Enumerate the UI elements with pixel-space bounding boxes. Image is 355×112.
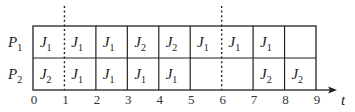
job-subscript: 2 [141, 42, 146, 53]
job-subscript: 2 [298, 74, 303, 85]
job-label: J2 [134, 34, 146, 53]
processor-label: P2 [7, 66, 22, 85]
x-tick-label: 3 [125, 92, 132, 107]
x-tick-label: 1 [62, 92, 69, 107]
job-subscript: 1 [235, 42, 240, 53]
job-subscript: 1 [109, 74, 114, 85]
job-cells: J1J1J1J2J2J1J1J1J2J1J1J1J1J2J2 [40, 34, 303, 85]
job-subscript: 1 [204, 42, 209, 53]
x-tick-label: 6 [219, 92, 226, 107]
job-label: J1 [260, 34, 272, 53]
x-tick-label: 5 [188, 92, 195, 107]
gantt-chart: J1J1J1J2J2J1J1J1J2J1J1J1J1J2J2 P1P2 0123… [0, 0, 355, 112]
job-label: J1 [166, 66, 178, 85]
processor-subscript: 1 [17, 42, 22, 53]
job-subscript: 1 [172, 74, 177, 85]
processor-name: P [7, 66, 17, 82]
job-label: J1 [229, 34, 241, 53]
x-tick-label: 9 [314, 92, 321, 107]
job-subscript: 1 [78, 42, 83, 53]
processor-labels: P1P2 [7, 34, 22, 85]
job-label: J1 [103, 34, 115, 53]
x-tick-label: 8 [282, 92, 289, 107]
x-axis-label: t [341, 92, 346, 108]
job-label: J2 [291, 66, 303, 85]
processor-name: P [7, 34, 17, 50]
job-label: J1 [40, 34, 52, 53]
processor-subscript: 2 [17, 74, 22, 85]
job-subscript: 1 [78, 74, 83, 85]
x-tick-label: 7 [251, 92, 258, 107]
x-tick-label: 4 [157, 92, 164, 107]
job-label: J2 [40, 66, 52, 85]
x-tick-label: 0 [31, 92, 38, 107]
x-tick-label: 2 [94, 92, 101, 107]
job-label: J2 [166, 34, 178, 53]
job-subscript: 2 [267, 74, 272, 85]
job-subscript: 1 [141, 74, 146, 85]
job-subscript: 1 [267, 42, 272, 53]
job-label: J1 [71, 66, 83, 85]
job-label: J1 [197, 34, 209, 53]
job-subscript: 1 [47, 42, 52, 53]
job-label: J1 [71, 34, 83, 53]
job-subscript: 2 [47, 74, 52, 85]
processor-label: P1 [7, 34, 22, 53]
job-label: J2 [260, 66, 272, 85]
job-label: J1 [134, 66, 146, 85]
job-label: J1 [103, 66, 115, 85]
job-subscript: 2 [172, 42, 177, 53]
job-subscript: 1 [109, 42, 114, 53]
